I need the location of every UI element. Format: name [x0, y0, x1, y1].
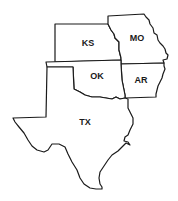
- state-map: KS MO AR OK TX: [0, 0, 178, 201]
- state-label-ks: KS: [82, 39, 95, 48]
- map-canvas: [0, 0, 178, 201]
- state-label-tx: TX: [79, 118, 91, 127]
- state-label-ar: AR: [135, 76, 148, 85]
- state-label-mo: MO: [130, 34, 145, 43]
- state-label-ok: OK: [90, 72, 104, 81]
